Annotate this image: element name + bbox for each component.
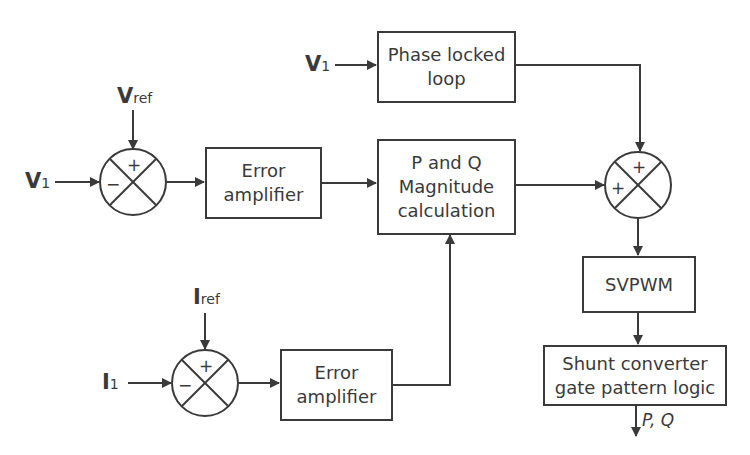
error-amplifier-2-block: Error amplifier (280, 349, 393, 421)
input-label-vref: Vref (117, 84, 152, 108)
sj2-plus-sign-left: + (611, 180, 625, 197)
sj2-plus-sign-top: + (632, 159, 646, 176)
sj1-plus-sign: + (127, 157, 141, 174)
phase-locked-loop-block: Phase locked loop (377, 31, 516, 103)
sj1-minus-sign: − (106, 176, 120, 193)
input-label-iref: Iref (193, 285, 220, 309)
input-label-v1-left: V1 (25, 169, 50, 193)
pq-magnitude-calculation-block: P and Q Magnitude calculation (377, 139, 516, 235)
error-amplifier-1-block: Error amplifier (205, 147, 322, 219)
shunt-converter-gate-logic-block: Shunt converter gate pattern logic (543, 345, 727, 406)
svpwm-block: SVPWM (582, 256, 696, 313)
output-label-pq: P, Q (642, 410, 674, 430)
sj3-plus-sign: + (199, 358, 213, 375)
input-label-i1: I1 (102, 370, 119, 394)
input-label-v1-top: V1 (305, 52, 330, 76)
sj3-minus-sign: − (178, 377, 192, 394)
